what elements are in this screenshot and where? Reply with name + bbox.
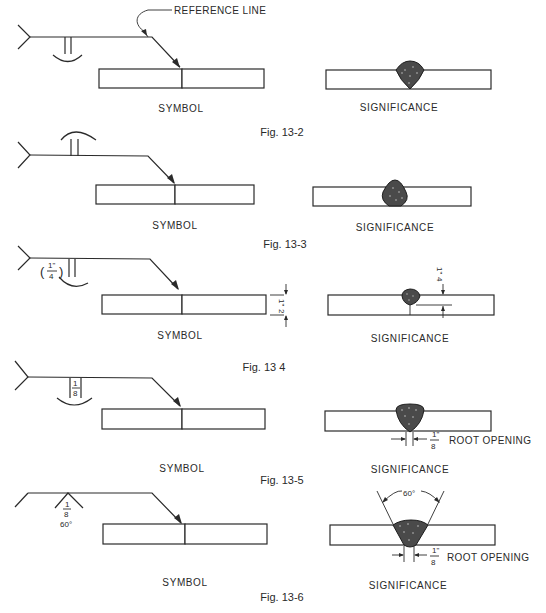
thickness-numerator: 1" <box>277 299 286 306</box>
fig-13-4-symbol: ( 1" 4 ) 1" 2 SYMBOL <box>18 246 288 341</box>
arrowhead-icon <box>174 514 182 524</box>
groove-angle-label: 60° <box>60 520 72 529</box>
root-opening-numerator: 1" <box>432 546 439 555</box>
arrowhead-icon <box>173 397 181 407</box>
significance-caption: SIGNIFICANCE <box>356 222 434 233</box>
fig-13-2-symbol: REFERENCE LINE SYMBOL <box>18 5 266 114</box>
size-denominator: 4 <box>49 272 54 281</box>
melt-through-icon <box>57 398 92 405</box>
root-opening-denominator: 8 <box>431 442 436 451</box>
significance-caption: SIGNIFICANCE <box>371 464 449 475</box>
melt-through-icon <box>61 132 96 140</box>
tail-icon <box>18 25 30 49</box>
penetration-numerator: 1" <box>435 267 444 274</box>
figure-caption: Fig. 13 4 <box>243 361 286 373</box>
melt-through-icon <box>53 55 82 62</box>
fig-13-4-significance: 1" 4 SIGNIFICANCE <box>328 267 494 344</box>
root-opening-denominator: 8 <box>431 558 436 567</box>
root-opening-label: ROOT OPENING <box>447 552 529 563</box>
welding-symbols-diagram: REFERENCE LINE SYMBOL SIGNIFICANCE Fig. … <box>0 0 546 613</box>
svg-text:(: ( <box>40 264 45 279</box>
root-opening-denominator: 8 <box>64 510 69 519</box>
fig-13-5-significance: 1" 8 ROOT OPENING SIGNIFICANCE <box>325 404 531 475</box>
penetration-denominator: 4 <box>435 277 444 282</box>
tail-icon <box>15 493 28 507</box>
melt-through-icon <box>59 277 88 286</box>
groove-angle-label: 60° <box>403 489 415 498</box>
fig-13-5-symbol: 1 8 SYMBOL <box>15 361 265 474</box>
tail-icon <box>15 361 28 390</box>
size-numerator: 1" <box>48 261 55 270</box>
arrowhead-icon <box>171 280 179 290</box>
tail-icon <box>18 246 30 270</box>
significance-caption: SIGNIFICANCE <box>369 580 447 591</box>
reference-line <box>30 37 180 67</box>
root-opening-denominator: 8 <box>73 389 78 398</box>
symbol-caption: SYMBOL <box>157 330 202 341</box>
figure-caption: Fig. 13-6 <box>260 591 303 603</box>
symbol-caption: SYMBOL <box>152 220 197 231</box>
tail-icon <box>18 142 30 168</box>
symbol-caption: SYMBOL <box>158 103 203 114</box>
figure-caption: Fig. 13-5 <box>260 474 303 486</box>
figure-caption: Fig. 13-2 <box>260 126 303 138</box>
svg-text:): ) <box>59 264 63 279</box>
symbol-caption: SYMBOL <box>162 577 207 588</box>
arrowhead-icon <box>167 174 175 184</box>
fig-13-3-symbol: SYMBOL <box>18 132 254 231</box>
root-opening-numerator: 1 <box>65 500 70 509</box>
figure-caption: Fig. 13-3 <box>263 238 306 250</box>
reference-line-label: REFERENCE LINE <box>174 5 266 16</box>
thickness-denominator: 2 <box>277 309 286 314</box>
root-opening-label: ROOT OPENING <box>449 435 531 446</box>
symbol-caption: SYMBOL <box>159 463 204 474</box>
significance-caption: SIGNIFICANCE <box>371 333 449 344</box>
fig-13-3-significance: SIGNIFICANCE <box>313 180 471 233</box>
weld-bead <box>382 180 407 206</box>
root-opening-numerator: 1 <box>73 379 78 388</box>
root-opening-numerator: 1" <box>432 430 439 439</box>
fig-13-6-symbol: 1 8 60° SYMBOL <box>15 493 267 588</box>
leader-line <box>137 10 172 37</box>
significance-caption: SIGNIFICANCE <box>360 102 438 113</box>
fig-13-6-significance: 60° 1" 8 ROOT OPENING SIGNIFICANCE <box>330 489 529 591</box>
fig-13-2-significance: SIGNIFICANCE <box>326 61 491 113</box>
